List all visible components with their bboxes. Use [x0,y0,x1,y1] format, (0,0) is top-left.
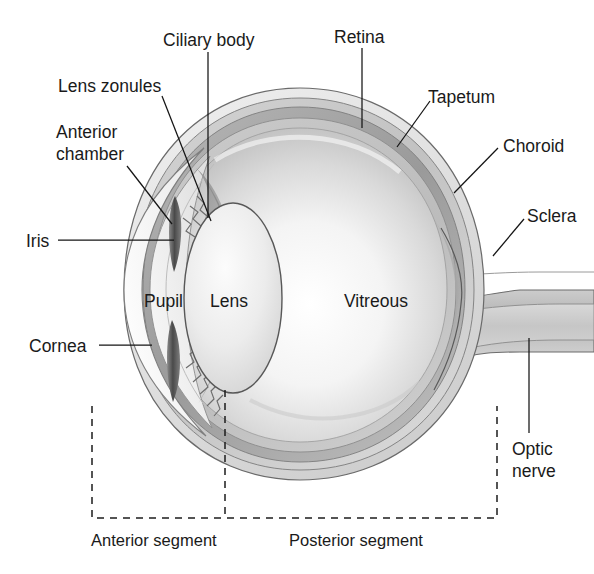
label-cornea: Cornea [29,336,87,356]
label-anterior-segment: Anterior segment [91,531,217,549]
label-retina: Retina [334,27,385,47]
label-vitreous: Vitreous [344,291,408,311]
label-choroid: Choroid [503,136,564,156]
label-tapetum: Tapetum [428,87,495,107]
label-optic-nerve-line1: Optic [512,439,553,459]
label-lens: Lens [210,291,248,311]
label-anterior-chamber-line1: Anterior [56,122,117,142]
label-anterior-chamber-line2: chamber [56,144,124,164]
label-posterior-segment: Posterior segment [289,531,423,549]
label-sclera: Sclera [527,206,577,226]
eye-cross-section-illustration: Ciliary body Retina Lens zonules Anterio… [0,0,594,574]
label-optic-nerve-line2: nerve [512,461,556,481]
leader-sclera [493,219,524,256]
label-ciliary-body: Ciliary body [163,30,255,50]
label-iris: Iris [26,231,50,251]
eye-anatomy-diagram: Ciliary body Retina Lens zonules Anterio… [0,0,594,574]
label-lens-zonules: Lens zonules [58,76,161,96]
leader-choroid [454,148,498,193]
label-pupil: Pupil [144,291,183,311]
